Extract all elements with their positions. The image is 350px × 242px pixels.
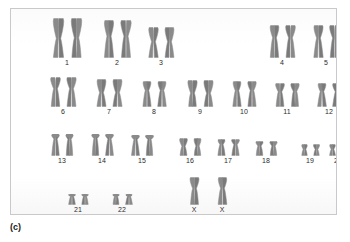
chromosome-group-11: 11 bbox=[267, 68, 307, 116]
chromosome-14-a bbox=[89, 134, 102, 157]
chromosome-10-a bbox=[230, 81, 244, 108]
chromosome-18-a bbox=[253, 141, 266, 157]
chromosome-pair bbox=[133, 68, 175, 108]
chromosome-group-13: 13 bbox=[43, 117, 81, 165]
karyotype-panel: 12345 6789101112 1314151617181920 2122XX bbox=[10, 8, 337, 215]
chromosome-17-b bbox=[229, 139, 242, 157]
chromosome-number-label: 19 bbox=[295, 157, 325, 165]
chromosome-19-a bbox=[299, 144, 310, 157]
chromosome-number-label: X bbox=[181, 206, 207, 214]
chromosome-22-b bbox=[123, 194, 135, 206]
chromosome-number-label: 21 bbox=[59, 206, 97, 214]
chromosome-7-a bbox=[94, 79, 109, 108]
chromosome-group-4: 4 bbox=[261, 19, 303, 67]
chromosome-group-6: 6 bbox=[41, 68, 85, 116]
chromosome-pair bbox=[223, 68, 265, 108]
chromosome-pair bbox=[209, 166, 235, 206]
karyotype-figure: 12345 6789101112 1314151617181920 2122XX… bbox=[0, 0, 350, 242]
chromosome-pair bbox=[309, 68, 337, 108]
chromosome-pair bbox=[43, 117, 81, 157]
chromosome-number-label: 7 bbox=[87, 108, 131, 116]
chromosome-number-label: 18 bbox=[247, 157, 285, 165]
chromosome-16-a bbox=[177, 138, 190, 157]
chromosome-group-19: 19 bbox=[295, 117, 325, 165]
chromosome-number-label: 14 bbox=[83, 157, 121, 165]
chromosome-12-a bbox=[315, 83, 329, 108]
chromosome-group-5: 5 bbox=[305, 19, 337, 67]
chromosome-number-label: 1 bbox=[43, 59, 91, 67]
chromosome-group-20: 20 bbox=[323, 117, 337, 165]
chromosome-number-label: 5 bbox=[305, 59, 337, 67]
chromosome-row-1: 12345 bbox=[11, 19, 336, 67]
chromosome-21-a bbox=[66, 194, 78, 206]
chromosome-pair bbox=[247, 117, 285, 157]
chromosome-group-1: 1 bbox=[43, 19, 91, 67]
chromosome-number-label: 8 bbox=[133, 108, 175, 116]
chromosome-row-4: 2122XX bbox=[11, 166, 336, 214]
chromosome-1-a bbox=[50, 18, 67, 59]
chromosome-5-b bbox=[327, 25, 338, 59]
chromosome-group-21: 21 bbox=[59, 166, 97, 214]
chromosome-18-b bbox=[267, 141, 280, 157]
chromosome-15-a bbox=[129, 135, 142, 157]
figure-caption: (c) bbox=[10, 222, 21, 232]
chromosome-20-a bbox=[327, 144, 338, 157]
chromosome-11-a bbox=[273, 83, 287, 108]
chromosome-number-label: 22 bbox=[103, 206, 141, 214]
chromosome-group-12: 12 bbox=[309, 68, 337, 116]
chromosome-pair bbox=[267, 68, 307, 108]
chromosome-pair bbox=[87, 68, 131, 108]
chromosome-9-b bbox=[201, 80, 216, 108]
chromosome-pair bbox=[103, 166, 141, 206]
chromosome-10-b bbox=[245, 81, 259, 108]
chromosome-7-b bbox=[110, 79, 125, 108]
chromosome-4-a bbox=[267, 25, 282, 59]
chromosome-pair bbox=[139, 19, 183, 59]
chromosome-row-2: 6789101112 bbox=[11, 68, 336, 116]
chromosome-9-a bbox=[185, 80, 200, 108]
chromosome-15-b bbox=[143, 135, 156, 157]
chromosome-number-label: 20 bbox=[323, 157, 337, 165]
chromosome-17-a bbox=[215, 139, 228, 157]
chromosome-number-label: 10 bbox=[223, 108, 265, 116]
chromosome-number-label: 12 bbox=[309, 108, 337, 116]
chromosome-number-label: X bbox=[209, 206, 235, 214]
chromosome-13-b bbox=[63, 134, 76, 157]
chromosome-group-14: 14 bbox=[83, 117, 121, 165]
chromosome-13-a bbox=[49, 134, 62, 157]
chromosome-group-16: 16 bbox=[171, 117, 209, 165]
chromosome-number-label: 6 bbox=[41, 108, 85, 116]
chromosome-pair bbox=[305, 19, 337, 59]
chromosome-21-b bbox=[79, 194, 91, 206]
chromosome-3-a bbox=[146, 27, 161, 59]
chromosome-pair bbox=[181, 166, 207, 206]
chromosome-group-15: 15 bbox=[123, 117, 161, 165]
chromosome-8-b bbox=[155, 81, 169, 108]
chromosome-5-a bbox=[311, 25, 326, 59]
chromosome-19-b bbox=[311, 144, 322, 157]
chromosome-pair bbox=[295, 117, 325, 157]
chromosome-number-label: 3 bbox=[139, 59, 183, 67]
chromosome-X bbox=[215, 177, 230, 206]
chromosome-22-a bbox=[110, 194, 122, 206]
chromosome-14-b bbox=[103, 134, 116, 157]
chromosome-group-8: 8 bbox=[133, 68, 175, 116]
chromosome-group-7: 7 bbox=[87, 68, 131, 116]
chromosome-number-label: 15 bbox=[123, 157, 161, 165]
chromosome-number-label: 11 bbox=[267, 108, 307, 116]
chromosome-pair bbox=[261, 19, 303, 59]
chromosome-number-label: 17 bbox=[209, 157, 247, 165]
chromosome-2-a bbox=[101, 20, 117, 59]
chromosome-pair bbox=[83, 117, 121, 157]
chromosome-pair bbox=[323, 117, 337, 157]
chromosome-pair bbox=[179, 68, 221, 108]
chromosome-group-3: 3 bbox=[139, 19, 183, 67]
chromosome-group-22: 22 bbox=[103, 166, 141, 214]
chromosome-pair bbox=[59, 166, 97, 206]
chromosome-group-18: 18 bbox=[247, 117, 285, 165]
chromosome-16-b bbox=[191, 138, 204, 157]
chromosome-number-label: 13 bbox=[43, 157, 81, 165]
chromosome-group-17: 17 bbox=[209, 117, 247, 165]
chromosome-pair bbox=[171, 117, 209, 157]
chromosome-number-label: 9 bbox=[179, 108, 221, 116]
